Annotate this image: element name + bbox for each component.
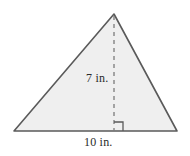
height-dimension-label: 7 in. [86, 71, 108, 86]
base-dimension-label: 10 in. [84, 135, 113, 150]
geometry-figure: 7 in. 10 in. [0, 0, 190, 156]
